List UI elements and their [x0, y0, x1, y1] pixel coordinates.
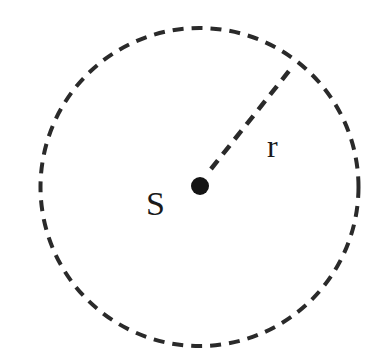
- source-label: S: [146, 185, 165, 222]
- radius-label: r: [267, 128, 278, 164]
- background: [0, 0, 384, 361]
- center-point-source: [191, 177, 209, 195]
- diagram-canvas: S r: [0, 0, 384, 361]
